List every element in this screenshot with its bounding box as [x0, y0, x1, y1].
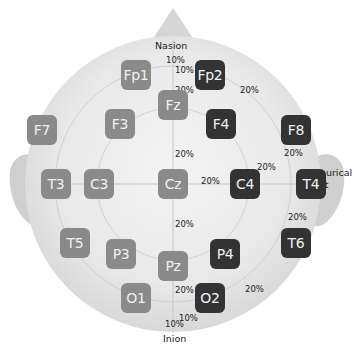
electrode-p4: P4 — [210, 239, 240, 269]
percent-label: 10% — [165, 320, 184, 329]
electrode-c4: C4 — [230, 169, 260, 199]
electrode-t5: T5 — [60, 228, 90, 258]
percent-label: 20% — [288, 213, 307, 222]
percent-label: 20% — [284, 149, 303, 158]
nasion-label: Nasion — [155, 41, 187, 51]
electrode-pz: Pz — [158, 251, 188, 281]
electrode-f8: F8 — [281, 115, 311, 145]
electrode-fp2: Fp2 — [195, 60, 225, 90]
electrode-t3: T3 — [41, 169, 71, 199]
electrode-fp1: Fp1 — [121, 60, 151, 90]
percent-label: 20% — [175, 150, 194, 159]
percent-label: 20% — [257, 163, 276, 172]
electrode-o2: O2 — [195, 283, 225, 313]
percent-label: 20% — [245, 285, 264, 294]
electrode-t4: T4 — [296, 169, 326, 199]
percent-label: 20% — [175, 286, 194, 295]
percent-label: 20% — [201, 177, 220, 186]
eeg-diagram: Nasion Inion Preaurical Point 10%10%20%2… — [0, 0, 354, 351]
electrode-f3: F3 — [105, 109, 135, 139]
electrode-f4: F4 — [206, 109, 236, 139]
electrode-fz: Fz — [158, 90, 188, 120]
percent-label: 20% — [175, 220, 194, 229]
electrode-o1: O1 — [121, 283, 151, 313]
electrode-t6: T6 — [281, 228, 311, 258]
electrode-cz: Cz — [158, 169, 188, 199]
inion-label: Inion — [163, 334, 186, 344]
electrode-f7: F7 — [27, 115, 57, 145]
percent-label: 10% — [166, 56, 185, 65]
electrode-p3: P3 — [106, 239, 136, 269]
percent-label: 20% — [240, 86, 259, 95]
electrode-c3: C3 — [84, 169, 114, 199]
percent-label: 10% — [175, 66, 194, 75]
